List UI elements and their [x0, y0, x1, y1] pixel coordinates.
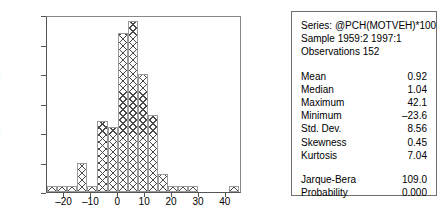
- histogram-bar: [118, 33, 128, 192]
- stat-value: –23.6: [402, 109, 427, 122]
- plot-area: [46, 16, 241, 193]
- descriptive-stats-list: Mean0.92Median1.04Maximum42.1Minimum–23.…: [301, 70, 427, 162]
- statistics-panel: Series: @PCH(MOTVEH)*100 Sample 1959:2 1…: [291, 11, 437, 196]
- x-axis-tick-mark: [90, 193, 91, 197]
- stat-value: 0.000: [402, 186, 427, 199]
- x-axis-tick-mark: [198, 193, 199, 197]
- y-axis-tick-mark: [41, 193, 46, 194]
- stat-value: 0.92: [408, 70, 427, 83]
- stat-label: Probability: [301, 186, 348, 199]
- histogram-bar: [67, 186, 77, 192]
- histogram-bar: [158, 174, 168, 192]
- x-axis-tick-mark: [63, 193, 64, 197]
- stat-row: Std. Dev.8.56: [301, 122, 427, 135]
- x-axis-tick-label: 10: [139, 196, 150, 207]
- x-axis-tick-label: –20: [55, 196, 72, 207]
- stat-label: Minimum: [301, 109, 342, 122]
- observations-label: Observations 152: [301, 45, 427, 58]
- histogram-bar: [47, 186, 57, 192]
- histogram-bar: [168, 186, 178, 192]
- histogram-bar: [108, 127, 118, 192]
- histogram-bar: [138, 74, 148, 192]
- stat-label: Skewness: [301, 136, 347, 149]
- histogram-bar: [77, 163, 87, 193]
- x-axis-tick-label: 20: [166, 196, 177, 207]
- stat-row: Mean0.92: [301, 70, 427, 83]
- histogram-bar: [128, 21, 138, 192]
- x-axis-tick-mark: [144, 193, 145, 197]
- stat-value: 42.1: [408, 96, 427, 109]
- histogram-chart: 051015202530 –20–10010203040: [0, 0, 252, 223]
- x-axis-tick-label: –10: [82, 196, 99, 207]
- bar-series: [47, 17, 240, 192]
- stat-label: Kurtosis: [301, 149, 337, 162]
- histogram-bar: [229, 186, 239, 192]
- histogram-bar: [148, 115, 158, 192]
- x-axis-tick-label: 40: [219, 196, 230, 207]
- stat-label: Mean: [301, 70, 326, 83]
- stat-value: 109.0: [402, 173, 427, 186]
- sample-label: Sample 1959:2 1997:1: [301, 32, 427, 45]
- histogram-screen: 051015202530 –20–10010203040 Series: @PC…: [0, 0, 444, 223]
- stats-spacer-top: [301, 59, 427, 70]
- x-axis-tick-mark: [117, 193, 118, 197]
- stat-label: Median: [301, 83, 334, 96]
- histogram-bar: [178, 186, 188, 192]
- stat-label: Std. Dev.: [301, 122, 341, 135]
- x-axis-tick-mark: [171, 193, 172, 197]
- normality-test-list: Jarque-Bera109.0Probability0.000: [301, 173, 427, 199]
- stat-value: 1.04: [408, 83, 427, 96]
- test-row: Probability0.000: [301, 186, 427, 199]
- stat-row: Kurtosis7.04: [301, 149, 427, 162]
- stats-spacer-mid: [301, 162, 427, 173]
- stat-row: Median1.04: [301, 83, 427, 96]
- stat-label: Maximum: [301, 96, 344, 109]
- stat-value: 0.45: [408, 136, 427, 149]
- stat-row: Maximum42.1: [301, 96, 427, 109]
- histogram-bar: [57, 186, 67, 192]
- stat-value: 8.56: [408, 122, 427, 135]
- x-axis-tick-mark: [225, 193, 226, 197]
- x-axis-tick-label: 0: [114, 196, 120, 207]
- stat-row: Minimum–23.6: [301, 109, 427, 122]
- histogram-bar: [188, 186, 198, 192]
- stat-row: Skewness0.45: [301, 136, 427, 149]
- stat-value: 7.04: [408, 149, 427, 162]
- test-row: Jarque-Bera109.0: [301, 173, 427, 186]
- histogram-bar: [97, 121, 107, 192]
- stat-label: Jarque-Bera: [301, 173, 356, 186]
- x-axis-tick-label: 30: [192, 196, 203, 207]
- histogram-bar: [87, 186, 97, 192]
- series-label: Series: @PCH(MOTVEH)*100: [301, 19, 427, 32]
